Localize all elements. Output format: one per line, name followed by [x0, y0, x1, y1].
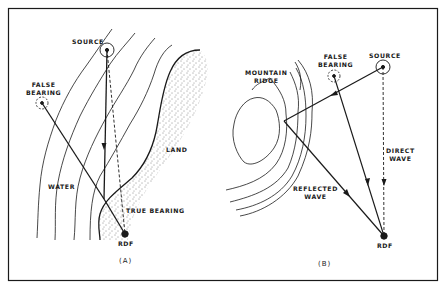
caption-b: (B) — [318, 260, 331, 268]
label-rdf-a: RDF — [118, 240, 134, 248]
label-land: LAND — [166, 146, 187, 154]
label-source-a: SOURCE — [72, 38, 104, 46]
label-false-bearing-a: FALSE BEARING — [26, 81, 61, 96]
arrow-icon — [382, 179, 387, 186]
label-false-bearing-b-line1: FALSE — [318, 53, 353, 61]
arrow-icon — [330, 91, 338, 97]
direct-wave-line — [383, 67, 384, 236]
label-false-bearing-b: FALSE BEARING — [318, 53, 353, 68]
label-true-bearing: TRUE BEARING — [126, 207, 185, 215]
label-direct-wave-line1: DIRECT — [386, 147, 415, 155]
arrow-icon — [102, 143, 107, 150]
label-rdf-b: RDF — [377, 242, 393, 250]
arrow-icon — [365, 178, 370, 186]
mountain-contour — [230, 72, 299, 202]
false-bearing-line-b — [334, 76, 384, 236]
label-mountain-ridge-line2: RIDGE — [245, 77, 287, 85]
mountain-contour — [233, 98, 280, 165]
label-direct-wave: DIRECT WAVE — [386, 147, 415, 162]
mountain-contour — [226, 78, 287, 190]
label-reflected-wave: REFLECTED WAVE — [293, 185, 338, 200]
label-false-bearing-a-line1: FALSE — [26, 81, 61, 89]
label-water: WATER — [48, 183, 75, 191]
caption-a: (A) — [119, 257, 132, 265]
label-false-bearing-b-line2: BEARING — [318, 61, 353, 69]
figure-frame — [9, 9, 438, 281]
label-false-bearing-a-line2: BEARING — [26, 89, 61, 97]
label-mountain-ridge-line1: MOUNTAIN — [245, 69, 287, 77]
label-source-b: SOURCE — [369, 52, 401, 60]
contour-line — [37, 29, 112, 238]
panel-b-rays — [284, 60, 390, 239]
label-reflected-wave-line1: REFLECTED — [293, 185, 338, 193]
rdf-b-marker — [381, 233, 387, 239]
label-direct-wave-line2: WAVE — [386, 155, 415, 163]
label-mountain-ridge: MOUNTAIN RIDGE — [245, 69, 287, 84]
rdf-a-marker — [122, 231, 128, 237]
label-reflected-wave-line2: WAVE — [293, 193, 338, 201]
